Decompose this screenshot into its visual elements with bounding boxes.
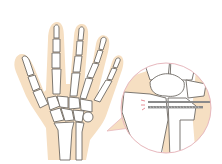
magnified-wrist-callout — [120, 58, 215, 160]
hand-illustration — [0, 0, 222, 164]
